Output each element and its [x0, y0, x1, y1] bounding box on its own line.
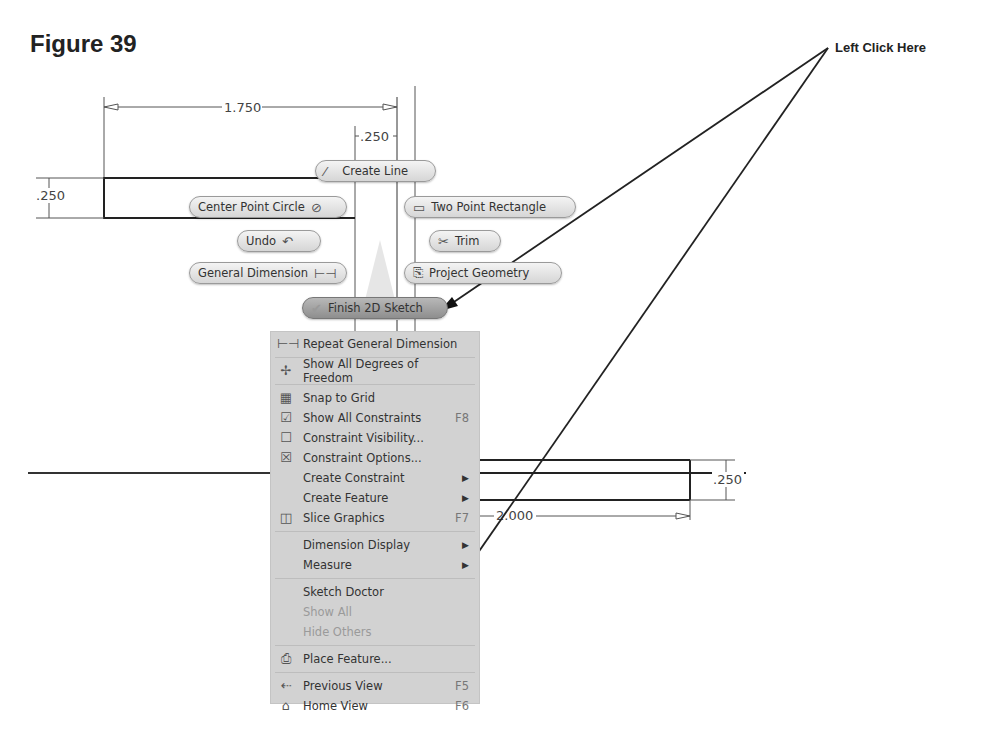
menu-item-label: Create Feature [303, 491, 388, 505]
undo-icon: ↶ [282, 234, 293, 249]
menu-item-place-feature[interactable]: ⎙Place Feature... [271, 649, 479, 669]
center-point-circle-label: Center Point Circle [198, 200, 305, 214]
dimension-250-right[interactable]: .250 [713, 472, 742, 487]
menu-separator [275, 531, 475, 532]
menu-separator [275, 645, 475, 646]
menu-item-sketch-doctor[interactable]: Sketch Doctor [271, 582, 479, 602]
degrees-of-freedom-icon: ✢ [277, 363, 295, 378]
menu-item-label: Show All Constraints [303, 411, 421, 425]
general-dimension-button[interactable]: General Dimension ⊢⊣ [189, 262, 347, 284]
center-point-circle-button[interactable]: Center Point Circle ⊘ [189, 196, 347, 218]
submenu-arrow-icon: ▶ [462, 473, 469, 483]
dimension-250-left[interactable]: .250 [36, 188, 65, 203]
menu-separator [275, 672, 475, 673]
shortcut-label: F6 [455, 699, 469, 713]
checkmark-icon: ✔ [311, 301, 322, 316]
project-geometry-icon: ⎘ [413, 265, 423, 281]
two-point-rectangle-label: Two Point Rectangle [431, 200, 546, 214]
general-dimension-label: General Dimension [198, 266, 308, 280]
create-line-label: Create Line [342, 164, 408, 178]
menu-item-label: Show All [303, 605, 352, 619]
menu-item-label: Snap to Grid [303, 391, 375, 405]
menu-item-constraint-options[interactable]: ☒Constraint Options... [271, 448, 479, 468]
menu-item-show-all: Show All [271, 602, 479, 622]
shortcut-label: F5 [455, 679, 469, 693]
constraint-options-icon: ☒ [277, 450, 295, 465]
menu-item-snap-to-grid[interactable]: ▦Snap to Grid [271, 388, 479, 408]
project-geometry-button[interactable]: ⎘ Project Geometry [404, 262, 562, 284]
menu-item-hide-others: Hide Others [271, 622, 479, 642]
undo-label: Undo [246, 234, 276, 248]
menu-item-dimension-display[interactable]: Dimension Display▶ [271, 535, 479, 555]
dimension-icon: ⊢⊣ [277, 336, 295, 351]
menu-item-label: Home View [303, 699, 368, 713]
menu-separator [275, 578, 475, 579]
menu-item-label: Create Constraint [303, 471, 405, 485]
menu-item-constraint-visibility[interactable]: ☐Constraint Visibility... [271, 428, 479, 448]
menu-item-create-feature[interactable]: Create Feature▶ [271, 488, 479, 508]
menu-item-label: Measure [303, 558, 352, 572]
undo-button[interactable]: Undo ↶ [237, 230, 321, 252]
menu-item-label: Sketch Doctor [303, 585, 384, 599]
menu-item-label: Previous View [303, 679, 383, 693]
rectangle-icon: ▭ [413, 200, 425, 215]
two-point-rectangle-button[interactable]: ▭ Two Point Rectangle [404, 196, 576, 218]
constraints-icon: ☑ [277, 410, 295, 425]
menu-item-slice-graphics[interactable]: ◫Slice GraphicsF7 [271, 508, 479, 528]
submenu-arrow-icon: ▶ [462, 493, 469, 503]
menu-item-label: Slice Graphics [303, 511, 385, 525]
menu-item-label: Constraint Visibility... [303, 431, 424, 445]
trim-icon: ✂ [438, 234, 449, 249]
menu-item-label: Place Feature... [303, 652, 392, 666]
trim-button[interactable]: ✂ Trim [429, 230, 501, 252]
submenu-arrow-icon: ▶ [462, 560, 469, 570]
constraint-visibility-icon: ☐ [277, 430, 295, 445]
finish-2d-sketch-label: Finish 2D Sketch [328, 301, 423, 315]
shortcut-label: F8 [455, 411, 469, 425]
submenu-arrow-icon: ▶ [462, 540, 469, 550]
home-view-icon: ⌂ [277, 698, 295, 713]
menu-item-create-constraint[interactable]: Create Constraint▶ [271, 468, 479, 488]
trim-label: Trim [455, 234, 479, 248]
place-feature-icon: ⎙ [277, 651, 295, 667]
line-icon: ⁄ [324, 164, 326, 179]
menu-item-home-view[interactable]: ⌂Home ViewF6 [271, 696, 479, 716]
menu-item-show-all-constraints[interactable]: ☑Show All ConstraintsF8 [271, 408, 479, 428]
dimension-2000[interactable]: 2.000 [496, 508, 533, 523]
sketch-canvas: 1.750 .250 .250 .250 2.000 [0, 0, 986, 736]
menu-item-show-all-degrees-of-freedom[interactable]: ✢Show All Degrees of Freedom [271, 361, 479, 381]
menu-item-label: Repeat General Dimension [303, 337, 457, 351]
create-line-button[interactable]: ⁄ Create Line [315, 160, 436, 182]
project-geometry-label: Project Geometry [429, 266, 529, 280]
dimension-250-top[interactable]: .250 [360, 129, 389, 144]
menu-item-label: Constraint Options... [303, 451, 422, 465]
finish-2d-sketch-button[interactable]: ✔ Finish 2D Sketch [302, 297, 448, 319]
context-menu: ⊢⊣Repeat General Dimension ✢Show All Deg… [270, 331, 480, 704]
previous-view-icon: ⇠ [277, 678, 295, 693]
menu-item-repeat-general-dimension[interactable]: ⊢⊣Repeat General Dimension [271, 334, 479, 354]
menu-item-label: Hide Others [303, 625, 372, 639]
slice-graphics-icon: ◫ [277, 510, 295, 525]
grid-icon: ▦ [277, 390, 295, 405]
dimension-1750[interactable]: 1.750 [224, 100, 261, 115]
circle-icon: ⊘ [311, 200, 322, 215]
menu-item-measure[interactable]: Measure▶ [271, 555, 479, 575]
shortcut-label: F7 [455, 511, 469, 525]
menu-item-previous-view[interactable]: ⇠Previous ViewF5 [271, 676, 479, 696]
menu-item-label: Dimension Display [303, 538, 410, 552]
dimension-icon: ⊢⊣ [314, 266, 337, 281]
menu-item-label: Show All Degrees of Freedom [303, 357, 469, 385]
